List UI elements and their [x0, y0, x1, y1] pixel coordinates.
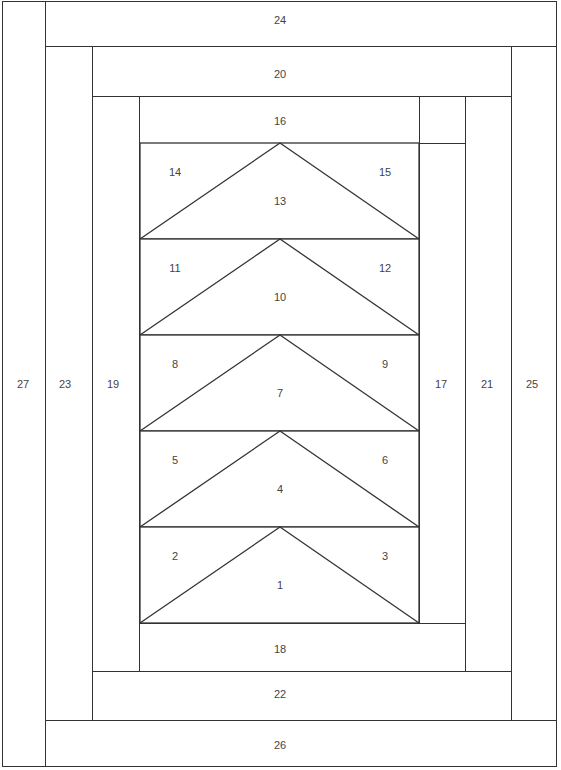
flying-geese-unit: [0, 0, 561, 770]
piece-label-4: 4: [277, 483, 283, 495]
piece-label-2: 2: [172, 550, 178, 562]
piece-label-13: 13: [274, 195, 286, 207]
piece-label-11: 11: [169, 262, 180, 274]
piece-label-12: 12: [379, 262, 391, 274]
quilt-pattern: 2724252623202122191617181413151110128795…: [0, 0, 561, 770]
piece-label-15: 15: [379, 166, 391, 178]
piece-label-9: 9: [382, 358, 388, 370]
piece-label-8: 8: [172, 358, 178, 370]
piece-label-14: 14: [169, 166, 181, 178]
piece-label-6: 6: [382, 454, 388, 466]
piece-label-3: 3: [382, 550, 388, 562]
piece-label-7: 7: [277, 387, 283, 399]
piece-label-5: 5: [172, 454, 178, 466]
piece-label-1: 1: [277, 579, 283, 591]
piece-label-10: 10: [274, 291, 286, 303]
